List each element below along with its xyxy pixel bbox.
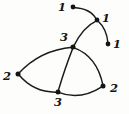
graph-node-dot xyxy=(101,84,106,89)
graph-edge xyxy=(19,75,58,93)
graph-node-label: 1 xyxy=(58,2,66,14)
graph-node-label: 1 xyxy=(113,39,121,51)
graph-edge xyxy=(58,48,73,92)
graph-edge xyxy=(74,8,97,20)
graph-node-label: 1 xyxy=(102,13,110,25)
graph-node-dot xyxy=(71,45,76,50)
graph-node-dot xyxy=(95,18,100,23)
graph-diagram-figure: 1113232 xyxy=(0,0,129,114)
graph-node-dot xyxy=(106,42,111,47)
graph-node-dot xyxy=(56,90,61,95)
graph-node-label: 3 xyxy=(60,32,68,44)
graph-node-label: 2 xyxy=(110,83,118,95)
graph-edge xyxy=(74,48,103,86)
graph-node-dot xyxy=(16,72,21,77)
graph-node-dot xyxy=(71,5,76,10)
graph-node-label: 2 xyxy=(3,71,11,83)
graph-node-label: 3 xyxy=(54,97,62,109)
edge-layer xyxy=(19,8,109,96)
node-layer xyxy=(16,5,111,95)
graph-edge xyxy=(59,86,103,95)
graph-edge xyxy=(73,21,96,47)
